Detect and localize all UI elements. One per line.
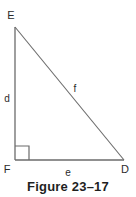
vertex-label-f: F <box>4 163 11 175</box>
right-triangle-diagram: E F D d f e <box>0 0 136 197</box>
side-label-f: f <box>74 83 77 94</box>
figure-caption: Figure 23–17 <box>0 179 136 194</box>
side-label-d: d <box>4 93 10 104</box>
side-label-e: e <box>65 167 71 178</box>
vertex-label-d: D <box>121 163 129 175</box>
side-f-line <box>15 27 124 160</box>
vertex-label-e: E <box>7 9 14 21</box>
figure-container: E F D d f e Figure 23–17 <box>0 0 136 197</box>
right-angle-marker <box>15 146 29 160</box>
